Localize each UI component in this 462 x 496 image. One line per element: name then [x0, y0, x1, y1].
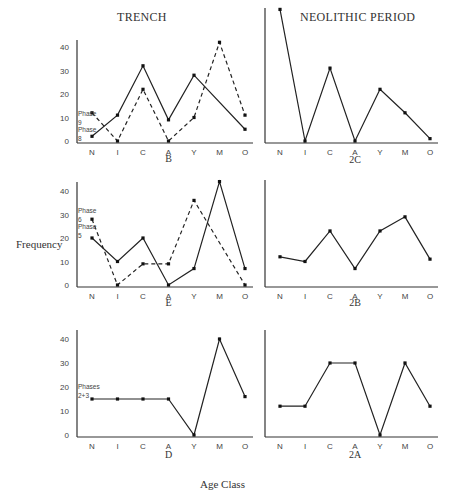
data-point [403, 215, 406, 218]
data-point [428, 405, 431, 408]
data-point [141, 88, 144, 91]
data-point [116, 114, 119, 117]
x-tick-label: I [304, 442, 306, 451]
x-tick-label: N [277, 442, 283, 451]
x-tick-label: C [327, 148, 333, 157]
data-point [303, 405, 306, 408]
series-annotation: 6 [78, 216, 82, 223]
y-tick-label: 20 [60, 383, 69, 392]
x-tick-label: Y [377, 442, 383, 451]
data-point [378, 229, 381, 232]
x-tick-label: Y [377, 148, 383, 157]
panel-d: 010203040NICAYMODPhases2+3 [60, 330, 253, 460]
data-point [192, 74, 195, 77]
x-tick-label: M [402, 442, 409, 451]
y-tick-label: 30 [60, 211, 69, 220]
x-tick-label: N [89, 292, 95, 301]
data-point [192, 267, 195, 270]
data-point [116, 397, 119, 400]
data-point [243, 395, 246, 398]
data-point [167, 397, 170, 400]
series-annotation: 9 [78, 119, 82, 126]
panel-2c: NICAYMO2C [265, 8, 438, 165]
panel-label: 2B [349, 297, 361, 308]
x-tick-label: M [402, 292, 409, 301]
x-tick-label: I [304, 148, 306, 157]
figure: TRENCH NEOLITHIC PERIOD Frequency Age Cl… [0, 0, 462, 496]
y-tick-label: 40 [60, 187, 69, 196]
x-tick-label: C [140, 292, 146, 301]
series-line-neolithic [280, 363, 430, 435]
x-tick-label: M [216, 292, 223, 301]
data-point [428, 258, 431, 261]
y-tick-label: 0 [65, 431, 70, 440]
series-line-phase-9 [92, 42, 245, 141]
x-tick-label: C [327, 292, 333, 301]
x-tick-label: I [304, 292, 306, 301]
x-tick-label: O [242, 292, 248, 301]
x-tick-label: C [327, 442, 333, 451]
panel-label: E [165, 297, 171, 308]
x-tick-label: I [116, 442, 118, 451]
y-tick-label: 30 [60, 359, 69, 368]
data-point [278, 255, 281, 258]
data-point [278, 405, 281, 408]
panel-label: 2A [349, 449, 362, 460]
data-point [328, 361, 331, 364]
data-point [243, 267, 246, 270]
y-tick-label: 40 [60, 43, 69, 52]
data-point [243, 128, 246, 131]
data-point [90, 236, 93, 239]
x-tick-label: N [89, 148, 95, 157]
charts-canvas: 010203040NICAYMOBPhase9Phase8NICAYMO2C01… [0, 0, 462, 496]
data-point [116, 260, 119, 263]
y-tick-label: 0 [65, 281, 70, 290]
x-tick-label: O [427, 442, 433, 451]
y-tick-label: 0 [65, 137, 70, 146]
data-point [218, 337, 221, 340]
data-point [141, 397, 144, 400]
x-tick-label: Y [191, 148, 197, 157]
data-point [116, 283, 119, 286]
data-point [243, 283, 246, 286]
data-point [90, 135, 93, 138]
series-line-phases-2-3 [92, 339, 245, 435]
x-tick-label: Y [191, 292, 197, 301]
series-annotation: Phases [78, 383, 100, 390]
data-point [141, 262, 144, 265]
series-line-phase-8 [92, 66, 245, 137]
data-point [192, 116, 195, 119]
data-point [378, 433, 381, 436]
data-point [90, 218, 93, 221]
y-tick-label: 10 [60, 114, 69, 123]
data-point [278, 8, 281, 11]
data-point [328, 67, 331, 70]
panel-b: 010203040NICAYMOBPhase9Phase8 [60, 40, 253, 164]
y-tick-label: 20 [60, 90, 69, 99]
data-point [90, 397, 93, 400]
data-point [243, 114, 246, 117]
x-tick-label: I [116, 148, 118, 157]
series-annotation: 8 [78, 135, 82, 142]
data-point [192, 199, 195, 202]
x-tick-label: I [116, 292, 118, 301]
y-tick-label: 20 [60, 234, 69, 243]
panel-label: B [165, 153, 172, 164]
x-tick-label: Y [377, 292, 383, 301]
y-tick-label: 40 [60, 335, 69, 344]
series-annotation: 2+3 [78, 392, 89, 399]
data-point [116, 139, 119, 142]
data-point [403, 111, 406, 114]
series-annotation: Phase [78, 126, 97, 133]
x-tick-label: O [427, 148, 433, 157]
data-point [428, 137, 431, 140]
series-line-neolithic [280, 217, 430, 269]
data-point [303, 139, 306, 142]
series-annotation: Phase [78, 223, 97, 230]
x-tick-label: C [140, 442, 146, 451]
series-annotation: 5 [78, 232, 82, 239]
data-point [378, 88, 381, 91]
x-tick-label: O [427, 292, 433, 301]
x-tick-label: O [242, 442, 248, 451]
y-tick-label: 10 [60, 258, 69, 267]
